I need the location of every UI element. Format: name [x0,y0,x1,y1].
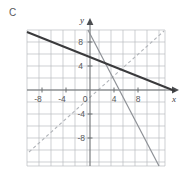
y-tick-label: 8 [78,37,83,47]
x-tick-label: -8 [34,94,42,104]
y-tick-label: -4 [77,109,85,119]
origin-label: 0 [83,94,88,104]
y-tick-label: 4 [78,61,83,71]
y-axis-label: y [79,15,84,25]
y-tick-label: -8 [77,133,85,143]
solid-line [27,32,175,91]
answer-choice-letter: C [9,7,16,18]
x-tick-label: 8 [136,94,141,104]
coordinate-graph-figure: C [0,0,183,176]
dashed-line-y-equals-x [29,31,164,152]
x-axis-label: x [171,94,176,104]
coordinate-plane-svg: -8 -4 0 4 8 8 4 -4 -8 x y [0,0,183,176]
grid-lines [27,30,165,166]
y-axis-arrow [87,18,94,25]
x-tick-label: -4 [58,94,66,104]
x-tick-label: 4 [112,94,117,104]
